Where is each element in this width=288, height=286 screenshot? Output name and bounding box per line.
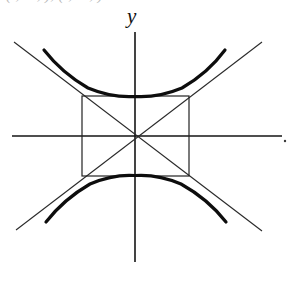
x-axis-end-dot: [284, 140, 286, 142]
hyperbola-diagram: [0, 0, 288, 286]
figure-canvas: ( , ≥ , ), ( , ≥ , ) y: [0, 0, 288, 286]
